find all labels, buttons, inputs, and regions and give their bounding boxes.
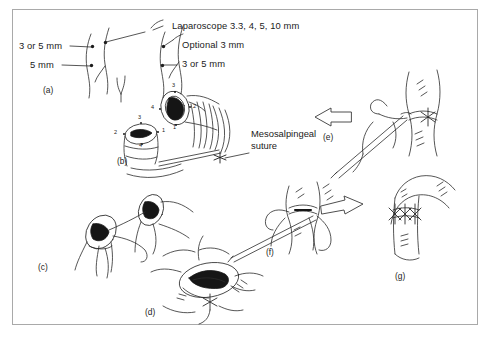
mesosalpingeal-line-1: Mesosalpingeal <box>251 128 316 140</box>
label-port-left-upper: 3 or 5 mm <box>19 40 62 51</box>
panel-label-c: (c) <box>38 262 48 272</box>
panel-label-e: (e) <box>323 132 333 142</box>
label-optional-port: Optional 3 mm <box>182 39 244 50</box>
label-port-right: 3 or 5 mm <box>182 58 225 69</box>
label-laparoscope: Laparoscope 3.3, 4, 5, 10 mm <box>172 20 299 31</box>
panel-label-g: (g) <box>395 271 405 281</box>
marker-b-lower-3: 3 <box>138 114 141 120</box>
panel-label-f: (f) <box>266 247 274 257</box>
marker-b-upper-3: 3 <box>172 82 175 88</box>
marker-b-lower-1: 1 <box>162 127 165 133</box>
figure-frame: 3 or 5 mm 5 mm Laparoscope 3.3, 4, 5, 10… <box>12 9 478 325</box>
label-mesosalpingeal-suture: Mesosalpingeal suture <box>251 128 316 151</box>
mesosalpingeal-line-2: suture <box>251 140 316 152</box>
surgical-figure: 3 or 5 mm 5 mm Laparoscope 3.3, 4, 5, 10… <box>0 0 493 342</box>
marker-b-lower-2: 2 <box>114 129 117 135</box>
figure-artwork <box>13 10 479 326</box>
marker-b-upper-4: 4 <box>151 104 154 110</box>
panel-label-a: (a) <box>43 85 53 95</box>
panel-label-b: (b) <box>117 156 127 166</box>
marker-b-upper-2: 2 <box>193 103 196 109</box>
panel-label-d: (d) <box>145 307 155 317</box>
marker-b-upper-1: 1 <box>173 124 176 130</box>
marker-b-lower-4: 4 <box>139 142 142 148</box>
label-port-left-lower: 5 mm <box>30 59 54 70</box>
